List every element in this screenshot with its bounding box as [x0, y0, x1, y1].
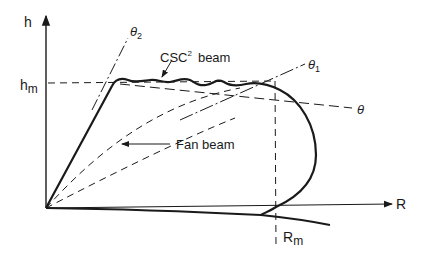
h-axis-label: h: [24, 14, 32, 30]
theta2-label: θ2: [130, 24, 142, 41]
reference-lines: [48, 81, 276, 246]
coverage-diagram: h hm R Rm θ2 θ1 θ CSC2beam Fan beam: [0, 0, 425, 263]
theta-label: θ: [357, 102, 364, 117]
csc2-beam-label: CSC2beam: [160, 49, 230, 65]
rm-line: [275, 81, 276, 246]
fan-beam-lower: [46, 118, 235, 208]
theta-line: [120, 84, 352, 108]
rm-label: Rm: [283, 229, 303, 248]
theta1-label: θ1: [308, 57, 320, 74]
r-axis: [46, 204, 392, 208]
pointers: [122, 60, 172, 144]
r-axis-label: R: [396, 196, 406, 212]
hm-label: hm: [20, 77, 38, 96]
ground-curve: [46, 208, 330, 225]
fan-beam-label: Fan beam: [176, 137, 235, 152]
theta2-line: [92, 38, 128, 110]
